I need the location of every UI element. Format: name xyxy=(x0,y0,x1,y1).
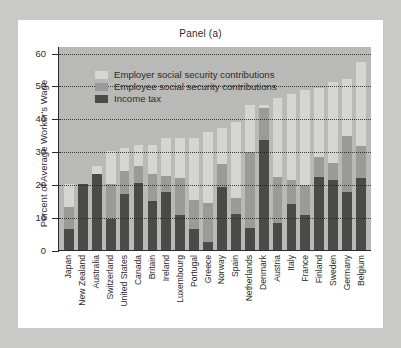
x-axis-label-cell: Canada xyxy=(131,253,145,323)
bar-segment-employer xyxy=(64,184,74,207)
grid-line xyxy=(59,218,371,219)
x-axis-tick-label: Greece xyxy=(203,255,213,283)
bar-segment-income-tax xyxy=(189,229,199,250)
bar-segment-employee xyxy=(148,174,158,200)
x-axis-tick-label: Norway xyxy=(216,255,226,284)
bar-column[interactable] xyxy=(285,47,299,250)
x-axis-label-cell: Austria xyxy=(270,253,284,323)
x-axis-label-cell: Italy xyxy=(284,253,298,323)
legend: Employer social security contributions E… xyxy=(95,69,277,105)
stacked-bar[interactable] xyxy=(356,47,366,250)
bar-segment-employer xyxy=(92,166,102,174)
bar-segment-income-tax xyxy=(287,204,297,250)
stacked-bar[interactable] xyxy=(78,47,88,250)
bar-column[interactable] xyxy=(62,47,76,250)
x-axis-label-cell: Finland xyxy=(312,253,326,323)
bar-segment-income-tax xyxy=(134,183,144,250)
y-axis-tick xyxy=(52,119,59,120)
y-axis-tick xyxy=(52,152,59,153)
bar-segment-employer xyxy=(175,138,185,178)
bar-column[interactable] xyxy=(76,47,90,250)
plot-area: Employer social security contributions E… xyxy=(58,47,371,251)
bar-segment-employee xyxy=(245,152,255,228)
x-axis-label-cell: France xyxy=(298,253,312,323)
legend-label-tax: Income tax xyxy=(114,94,161,104)
bar-column[interactable] xyxy=(312,47,326,250)
bar-segment-income-tax xyxy=(328,180,338,250)
bar-segment-employer xyxy=(106,151,116,184)
x-axis-label-cell: Japan xyxy=(61,253,75,323)
legend-item-employee: Employee social security contributions xyxy=(95,81,277,92)
stacked-bar[interactable] xyxy=(314,47,324,250)
x-axis-label-cell: Spain xyxy=(228,253,242,323)
bar-segment-income-tax xyxy=(259,140,269,250)
y-axis-tick-label: 50 xyxy=(20,80,46,91)
bar-segment-employer xyxy=(328,82,338,163)
x-axis-label-cell: New Zealand xyxy=(75,253,89,323)
bar-segment-income-tax xyxy=(148,201,158,250)
bar-segment-employer xyxy=(189,138,199,200)
bar-segment-employee xyxy=(342,136,352,193)
bar-segment-income-tax xyxy=(342,192,352,250)
bar-segment-employer xyxy=(148,145,158,175)
x-axis-tick-label: Ireland xyxy=(161,255,171,281)
bar-column[interactable] xyxy=(298,47,312,250)
stacked-bar[interactable] xyxy=(328,47,338,250)
bar-segment-employer xyxy=(231,122,241,198)
stacked-bar[interactable] xyxy=(300,47,310,250)
bar-segment-employee xyxy=(134,166,144,182)
bar-segment-employer xyxy=(273,98,283,177)
stacked-bar[interactable] xyxy=(64,47,74,250)
bar-segment-employee xyxy=(189,200,199,229)
y-axis-tick xyxy=(52,218,59,219)
x-axis-tick-label: Portugal xyxy=(189,255,199,287)
x-axis-tick-label: Australia xyxy=(91,255,101,288)
bar-segment-employee xyxy=(120,171,130,194)
bar-segment-employee xyxy=(314,157,324,177)
x-axis-tick-label: Canada xyxy=(133,255,143,285)
x-axis-tick-label: Sweden xyxy=(328,255,338,286)
bar-segment-employer xyxy=(203,132,213,204)
x-axis-label-cell: Luxembourg xyxy=(173,253,187,323)
x-axis-tick-label: Italy xyxy=(286,255,296,271)
y-axis-tick xyxy=(52,54,59,55)
bar-column[interactable] xyxy=(340,47,354,250)
x-axis-tick-label: Luxembourg xyxy=(175,255,185,303)
bar-segment-employer xyxy=(217,128,227,164)
bar-segment-employee xyxy=(203,203,213,241)
bar-segment-income-tax xyxy=(245,228,255,250)
stacked-bar[interactable] xyxy=(287,47,297,250)
bar-segment-employer xyxy=(245,105,255,152)
x-axis-label-cell: Denmark xyxy=(256,253,270,323)
bar-column[interactable] xyxy=(326,47,340,250)
bar-segment-income-tax xyxy=(106,219,116,250)
y-axis-tick-label: 40 xyxy=(20,113,46,124)
bar-segment-employee xyxy=(328,163,338,180)
stacked-bar[interactable] xyxy=(342,47,352,250)
bar-segment-employee xyxy=(356,146,366,177)
bar-segment-income-tax xyxy=(203,242,213,250)
y-axis-tick xyxy=(52,185,59,186)
bar-segment-employee xyxy=(300,185,310,215)
x-axis-label-cell: Greece xyxy=(201,253,215,323)
x-axis-label-cell: Britain xyxy=(145,253,159,323)
bar-segment-income-tax xyxy=(231,214,241,250)
legend-item-tax: Income tax xyxy=(95,93,277,104)
bar-segment-employer xyxy=(314,88,324,157)
y-axis-tick xyxy=(52,86,59,87)
bar-segment-employee xyxy=(217,164,227,188)
x-axis-labels: JapanNew ZealandAustraliaSwitzerlandUnit… xyxy=(58,253,371,323)
x-axis-label-cell: Portugal xyxy=(187,253,201,323)
screenshot-root: Panel (a) Percent of Average Worker's Wa… xyxy=(0,0,401,348)
bar-segment-income-tax xyxy=(64,229,74,250)
bar-segment-income-tax xyxy=(356,178,366,250)
x-axis-label-cell: Ireland xyxy=(159,253,173,323)
bar-segment-employee xyxy=(175,178,185,215)
x-axis-tick-label: France xyxy=(300,255,310,282)
legend-label-employer: Employer social security contributions xyxy=(114,70,275,80)
grid-line xyxy=(59,185,371,186)
bar-column[interactable] xyxy=(354,47,368,250)
page-title: Panel (a) xyxy=(18,28,383,39)
x-axis-tick-label: Germany xyxy=(342,255,352,290)
bar-segment-income-tax xyxy=(161,192,171,250)
